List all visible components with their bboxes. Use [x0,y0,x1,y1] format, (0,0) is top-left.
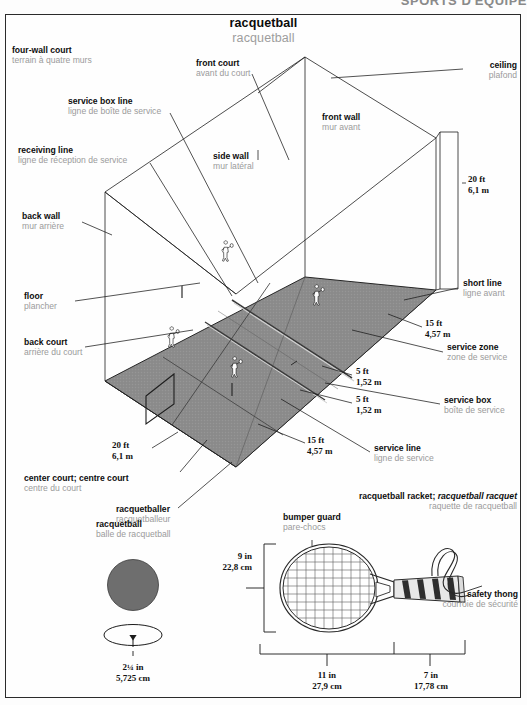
page-root: SPORTS D'ÉQUIPE racquetball racquetball [0,0,527,705]
title-en: racquetball [0,16,527,30]
dim-racket-head-width: 9 in 22,8 cm [186,551,252,572]
label-back-court: back court arrière du court [24,338,82,357]
dim-racket-handle-length-metric: 17,78 cm [392,681,470,692]
label-front-wall: front wall mur avant [322,113,360,132]
dim-court-width-imperial: 20 ft [112,440,133,451]
dim-ball-diameter-metric: 5,725 cm [78,673,188,684]
label-receiving-line: receiving line ligne de réception de ser… [18,146,127,165]
dim-racket-head-length-metric: 27,9 cm [288,681,366,692]
dim-service-zone-imperial: 5 ft [356,366,382,377]
racket-rim-outer [280,544,378,632]
label-service-box-line-fr: ligne de boîte de service [68,107,161,117]
dim-service-box: 5 ft 1,52 m [356,394,382,415]
label-racquetball-racket: racquetball racket; racquetball racquet … [275,492,517,511]
racket-svg [272,520,522,650]
label-ceiling-fr: plafond [350,71,517,81]
dim-racket-handle-length-imperial: 7 in [392,670,470,681]
label-ceiling: ceiling plafond [350,61,517,80]
label-service-box-line: service box line ligne de boîte de servi… [68,97,161,116]
running-head-rule: SPORTS D'ÉQUIPE [330,0,527,9]
label-service-zone: service zone zone de service [447,343,507,362]
label-short-line: short line ligne avant [463,279,505,298]
dim-court-width-metric: 6,1 m [112,451,133,462]
dim-racket-head-width-metric: 22,8 cm [186,562,252,573]
dim-front-length-metric: 4,57 m [307,446,333,457]
label-racquetball-ball-fr: balle de racquetball [96,530,171,540]
ball-illustration [88,555,198,660]
label-short-line-fr: ligne avant [463,289,505,299]
dim-racket-head-length: 11 in 27,9 cm [288,670,366,691]
label-back-court-fr: arrière du court [24,348,82,358]
dim-short-to-back-metric: 4,57 m [425,329,451,340]
dim-racket-head-width-imperial: 9 in [186,551,252,562]
label-side-wall: side wall mur latéral [213,152,254,171]
label-service-line-fr: ligne de service [374,454,434,464]
dim-ball-diameter: 2¼ in 5,725 cm [78,662,188,683]
label-receiving-line-fr: ligne de réception de service [18,156,127,166]
dim-ball-diameter-imperial: 2¼ in [78,662,188,673]
dim-racket-head-length-imperial: 11 in [288,670,366,681]
ball-svg [88,555,198,660]
label-four-wall-court: four-wall court terrain à quatre murs [12,46,92,65]
dim-front-length-imperial: 15 ft [307,435,333,446]
dim-front-length: 15 ft 4,57 m [307,435,333,456]
dim-short-to-back-imperial: 15 ft [425,318,451,329]
dim-wall-height-metric: 6,1 m [468,185,489,196]
label-service-box: service box boîte de service [444,396,505,415]
running-head: SPORTS D'ÉQUIPE [330,0,527,8]
dim-racket-handle-length: 7 in 17,78 cm [392,670,470,691]
label-service-zone-fr: zone de service [447,353,507,363]
dim-court-width: 20 ft 6,1 m [112,440,133,461]
dim-service-zone-metric: 1,52 m [356,377,382,388]
ball-circle [108,560,159,611]
label-back-wall: back wall mur arrière [22,212,64,231]
dim-short-to-back: 15 ft 4,57 m [425,318,451,339]
label-racquetball-racket-fr: raquette de racquetball [275,502,517,512]
label-front-wall-fr: mur avant [322,123,360,133]
label-racquetball-ball: racquetball balle de racquetball [96,520,171,539]
racket-illustration [272,520,522,650]
dim-wall-height: 20 ft 6,1 m [468,174,489,195]
racket-throat [376,582,390,597]
label-service-box-fr: boîte de service [444,406,505,416]
dim-service-zone: 5 ft 1,52 m [356,366,382,387]
label-service-line: service line ligne de service [374,444,434,463]
label-floor: floor plancher [24,292,57,311]
label-four-wall-court-fr: terrain à quatre murs [12,56,92,66]
label-front-court: front court avant du court [196,59,250,78]
label-front-court-fr: avant du court [196,69,250,79]
label-center-court-fr: centre du court [24,484,129,494]
page-title: racquetball racquetball [0,16,527,45]
label-side-wall-fr: mur latéral [213,162,254,172]
label-center-court: center court; centre court centre du cou… [24,474,129,493]
dim-service-box-metric: 1,52 m [356,405,382,416]
dim-wall-height-imperial: 20 ft [468,174,489,185]
dim-service-box-imperial: 5 ft [356,394,382,405]
title-fr: racquetball [0,31,527,45]
label-floor-fr: plancher [24,302,57,312]
label-back-wall-fr: mur arrière [22,222,64,232]
